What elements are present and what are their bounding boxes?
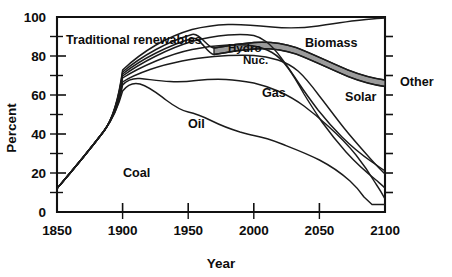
series-label-other: Other	[400, 75, 434, 89]
x-tick-label-2100: 2100	[370, 223, 400, 238]
right-axis-ticks	[385, 37, 393, 193]
x-tick-label-2050: 2050	[305, 223, 335, 238]
energy-share-chart-figure: 100 80 60 40 20 0 Percent	[0, 0, 452, 277]
y-tick-label-40: 40	[31, 127, 46, 142]
series-label-oil: Oil	[188, 117, 205, 131]
x-tick-label-1850: 1850	[42, 223, 72, 238]
oil-boundary-curve	[57, 78, 385, 199]
series-label-nuclear: Nuc.	[243, 53, 268, 66]
series-label-biomass: Biomass	[305, 36, 358, 50]
y-tick-label-60: 60	[31, 88, 46, 103]
x-tick-label-1900: 1900	[108, 223, 138, 238]
y-tick-label-100: 100	[24, 10, 46, 25]
series-label-solar: Solar	[345, 90, 377, 104]
x-axis-title: Year	[207, 256, 236, 271]
gas-boundary-curve	[57, 55, 385, 188]
series-label-coal: Coal	[123, 166, 150, 180]
hydro-boundary-curve	[57, 34, 385, 188]
series-label-gas: Gas	[262, 86, 286, 100]
x-tick-label-1950: 1950	[173, 223, 203, 238]
solar-boundary-curve	[57, 38, 385, 188]
biomass-lower-boundary-curve	[57, 34, 385, 188]
coal-boundary-curve	[57, 83, 385, 204]
x-axis-major-ticks	[57, 203, 385, 212]
x-tick-label-2000: 2000	[239, 223, 269, 238]
y-tick-label-80: 80	[31, 49, 46, 64]
chart-svg: 100 80 60 40 20 0 Percent	[0, 0, 452, 277]
series-label-traditional-renewables: Traditional renewables	[66, 33, 202, 47]
y-axis-title: Percent	[4, 103, 19, 153]
y-tick-label-0: 0	[39, 205, 46, 220]
y-tick-label-20: 20	[31, 166, 46, 181]
